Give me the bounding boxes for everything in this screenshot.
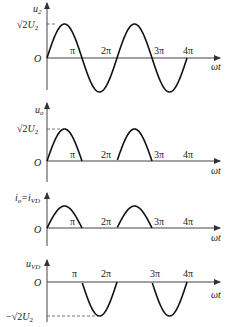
- tick-label-4pi: 4π: [183, 216, 193, 227]
- tick-label-2pi: 2π: [101, 268, 111, 279]
- y-axis-label: io=iVD: [15, 192, 40, 205]
- origin-label: O: [34, 53, 41, 64]
- panel-uvd: uVD −√2U2 O π 2π 3π 4π ωt: [6, 258, 221, 324]
- rectifier-waveform-diagram: u2 √2U2 O π 2π 3π 4π ωt uo √2U2 O π 2π 3…: [0, 0, 226, 327]
- tick-label-pi: π: [70, 45, 75, 56]
- tick-label-4pi: 4π: [183, 149, 193, 160]
- x-axis-label: ωt: [211, 61, 221, 72]
- tick-label-2pi: 2π: [101, 149, 111, 160]
- peak-level-label: √2U2: [17, 123, 39, 136]
- tick-label-3pi: 3π: [154, 216, 164, 227]
- tick-label-pi: π: [70, 216, 75, 227]
- tick-label-2pi: 2π: [101, 216, 111, 227]
- waveform-uo: [47, 129, 152, 161]
- origin-label: O: [34, 157, 41, 168]
- tick-label-pi: π: [72, 268, 77, 279]
- x-axis-label: ωt: [211, 165, 221, 176]
- waveform-io: [47, 206, 152, 228]
- x-axis-label: ωt: [211, 232, 221, 243]
- tick-label-pi: π: [70, 149, 75, 160]
- tick-label-3pi: 3π: [154, 45, 164, 56]
- waveform-uvd: [82, 282, 187, 316]
- y-axis-label: uo: [35, 104, 44, 117]
- panel-uo: uo √2U2 O π 2π 3π 4π ωt: [17, 103, 221, 182]
- tick-label-4pi: 4π: [183, 268, 193, 279]
- tick-label-3pi: 3π: [150, 268, 160, 279]
- y-axis-label: u2: [33, 3, 42, 16]
- tick-label-4pi: 4π: [183, 45, 193, 56]
- trough-level-label: −√2U2: [6, 311, 33, 324]
- panel-io: io=iVD O π 2π 3π 4π ωt: [15, 192, 221, 246]
- origin-label: O: [34, 277, 41, 288]
- origin-label: O: [34, 224, 41, 235]
- panel-u2: u2 √2U2 O π 2π 3π 4π ωt: [17, 3, 221, 92]
- peak-level-label: √2U2: [17, 19, 39, 32]
- tick-label-2pi: 2π: [101, 45, 111, 56]
- tick-label-3pi: 3π: [154, 149, 164, 160]
- x-axis-label: ωt: [211, 289, 221, 300]
- y-axis-label: uVD: [26, 258, 40, 271]
